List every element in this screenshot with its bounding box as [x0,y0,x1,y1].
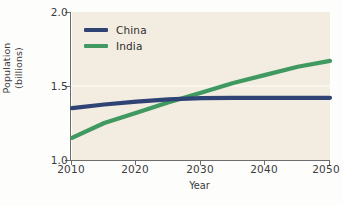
china-line [72,98,330,108]
population-projection-chart: 2.0 1.5 1.0 Population (billions) 2010 2… [0,0,343,206]
x-axis-title: Year [189,180,210,191]
y-axis-title: Population (billions) [1,13,33,123]
x-tick-label-2050: 2050 [304,163,343,175]
legend-swatch-india-icon [84,44,108,49]
y-axis-title-line2: (billions) [13,13,25,123]
legend-label-india: India [116,40,143,52]
x-tick-label-2010: 2010 [49,163,93,175]
legend-label-china: China [116,24,147,36]
x-tick-label-2040: 2040 [242,163,286,175]
y-tick-labels: 2.0 1.5 1.0 [36,0,68,206]
y-tick-label-2point0: 2.0 [38,6,68,18]
y-tick-label-1point5: 1.5 [38,80,68,92]
legend-swatch-china-icon [84,28,108,33]
legend-item-china: China [84,22,180,38]
legend-item-india: India [84,38,180,54]
x-tick-label-2030: 2030 [178,163,222,175]
x-axis-title-wrap: Year [0,180,343,191]
x-tick-label-2020: 2020 [113,163,157,175]
y-axis-title-line1: Population [1,43,12,94]
chart-legend: China India [84,22,180,54]
